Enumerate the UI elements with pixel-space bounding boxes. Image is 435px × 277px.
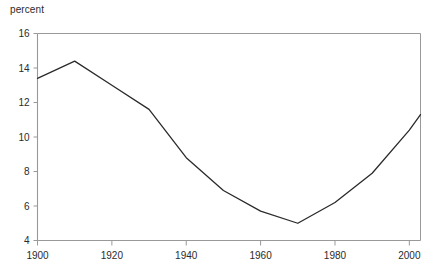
y-tick-label: 16 [18,28,30,39]
x-tick-mark-group [38,241,410,246]
y-tick-label: 14 [18,63,30,74]
line-chart-plot: 16141210864 190019201940196019802000 [0,0,435,277]
y-tick-label-group: 16141210864 [18,28,30,246]
y-tick-label: 8 [24,166,30,177]
y-tick-label: 6 [24,201,30,212]
x-tick-label-group: 190019201940196019802000 [26,250,421,261]
x-tick-label: 1920 [101,250,124,261]
y-tick-label: 12 [18,97,30,108]
axis-frame [38,34,421,241]
y-tick-label: 10 [18,132,30,143]
y-tick-mark-group [34,34,38,241]
y-tick-label: 4 [24,235,30,246]
x-tick-label: 2000 [398,250,421,261]
data-series-line [38,61,421,223]
x-tick-label: 1900 [26,250,49,261]
x-tick-label: 1940 [175,250,198,261]
x-tick-label: 1980 [324,250,347,261]
x-tick-label: 1960 [249,250,272,261]
chart-container: percent 16141210864 19001920194019601980… [0,0,435,277]
